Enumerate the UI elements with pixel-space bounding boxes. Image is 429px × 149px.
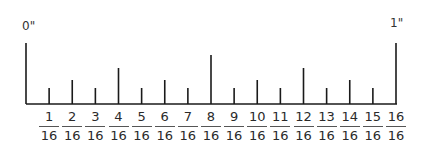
numerator: 2 <box>61 110 83 124</box>
fraction-bar <box>155 126 175 127</box>
fraction-bar <box>201 126 221 127</box>
numerator: 8 <box>200 110 222 124</box>
fraction-label: 1316 <box>316 110 338 142</box>
denominator: 16 <box>84 129 106 142</box>
fraction-label: 316 <box>84 110 106 142</box>
fraction-bar <box>62 126 82 127</box>
numerator: 1 <box>38 110 60 124</box>
numerator: 11 <box>269 110 291 124</box>
fraction-bar <box>340 126 360 127</box>
fraction-label: 1516 <box>362 110 384 142</box>
numerator: 5 <box>131 110 153 124</box>
fraction-label: 416 <box>108 110 130 142</box>
denominator: 16 <box>177 129 199 142</box>
fraction-bar <box>39 126 59 127</box>
fraction-label: 916 <box>223 110 245 142</box>
numerator: 13 <box>316 110 338 124</box>
numerator: 16 <box>385 110 407 124</box>
numerator: 3 <box>84 110 106 124</box>
fraction-label: 816 <box>200 110 222 142</box>
fraction-bar <box>178 126 198 127</box>
denominator: 16 <box>131 129 153 142</box>
numerator: 4 <box>108 110 130 124</box>
denominator: 16 <box>269 129 291 142</box>
numerator: 10 <box>246 110 268 124</box>
numerator: 9 <box>223 110 245 124</box>
denominator: 16 <box>154 129 176 142</box>
fraction-bar <box>224 126 244 127</box>
fraction-bar <box>270 126 290 127</box>
fraction-label: 616 <box>154 110 176 142</box>
fraction-label: 516 <box>131 110 153 142</box>
fraction-label: 716 <box>177 110 199 142</box>
denominator: 16 <box>339 129 361 142</box>
denominator: 16 <box>108 129 130 142</box>
fraction-bar <box>109 126 129 127</box>
denominator: 16 <box>385 129 407 142</box>
ruler-ticks <box>26 43 396 104</box>
fraction-bar <box>363 126 383 127</box>
numerator: 15 <box>362 110 384 124</box>
denominator: 16 <box>362 129 384 142</box>
fraction-bar <box>132 126 152 127</box>
denominator: 16 <box>61 129 83 142</box>
denominator: 16 <box>38 129 60 142</box>
numerator: 14 <box>339 110 361 124</box>
numerator: 6 <box>154 110 176 124</box>
fraction-bar <box>247 126 267 127</box>
fraction-label: 1416 <box>339 110 361 142</box>
denominator: 16 <box>246 129 268 142</box>
denominator: 16 <box>223 129 245 142</box>
fraction-label: 116 <box>38 110 60 142</box>
fraction-bar <box>317 126 337 127</box>
fraction-bar <box>386 126 406 127</box>
denominator: 16 <box>200 129 222 142</box>
fraction-bar <box>294 126 314 127</box>
fraction-label: 1216 <box>293 110 315 142</box>
fraction-label: 1616 <box>385 110 407 142</box>
denominator: 16 <box>293 129 315 142</box>
fraction-label: 216 <box>61 110 83 142</box>
fraction-label: 1116 <box>269 110 291 142</box>
denominator: 16 <box>316 129 338 142</box>
numerator: 7 <box>177 110 199 124</box>
numerator: 12 <box>293 110 315 124</box>
fraction-bar <box>85 126 105 127</box>
fraction-label: 1016 <box>246 110 268 142</box>
